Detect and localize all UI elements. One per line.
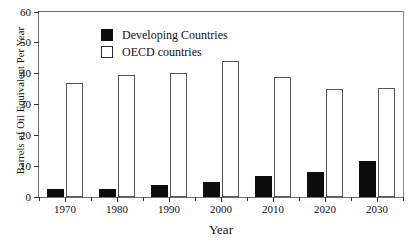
x-tick: 1980 (106, 197, 128, 215)
legend-label: Developing Countries (122, 29, 228, 41)
x-tick: 2020 (314, 197, 336, 215)
x-minor-tick-mark (403, 197, 404, 201)
x-tick-label: 2030 (366, 204, 388, 215)
x-minor-tick-mark (91, 197, 92, 201)
x-tick-mark (117, 197, 118, 202)
y-tick-mark (34, 104, 39, 105)
y-tick-mark (34, 73, 39, 74)
x-tick-mark (273, 197, 274, 202)
legend-item-developing-countries: Developing Countries (101, 26, 228, 43)
bar-oecd-countries (222, 61, 240, 197)
y-tick-label: 0 (26, 191, 32, 202)
bar-developing-countries (151, 185, 169, 197)
x-tick-label: 1970 (54, 204, 76, 215)
y-tick-mark (34, 135, 39, 136)
y-tick-label: 20 (20, 129, 31, 140)
x-tick: 1970 (54, 197, 76, 215)
x-tick-mark (377, 197, 378, 202)
x-minor-tick-mark (351, 197, 352, 201)
x-tick-mark (325, 197, 326, 202)
x-tick: 2030 (366, 197, 388, 215)
chart-legend: Developing Countries OECD countries (101, 26, 228, 60)
legend-swatch-open-square-icon (101, 46, 113, 58)
y-tick-label: 30 (20, 99, 31, 110)
x-minor-tick-mark (39, 197, 40, 201)
legend-item-oecd-countries: OECD countries (101, 43, 228, 60)
y-tick-label: 10 (20, 160, 31, 171)
x-minor-tick-mark (195, 197, 196, 201)
bar-oecd-countries (170, 73, 188, 197)
bar-developing-countries (203, 182, 221, 197)
bar-oecd-countries (118, 75, 136, 197)
x-tick-mark (65, 197, 66, 202)
bar-developing-countries (307, 172, 325, 197)
x-tick: 1990 (158, 197, 180, 215)
bar-oecd-countries (66, 83, 84, 197)
bar-oecd-countries (326, 89, 344, 197)
chart-figure: Barrels of Oil Equivalent Per Year 01020… (0, 0, 412, 247)
y-tick-label: 60 (20, 6, 31, 17)
x-minor-tick-mark (247, 197, 248, 201)
x-tick-label: 2020 (314, 204, 336, 215)
x-tick-label: 1990 (158, 204, 180, 215)
x-tick: 2010 (262, 197, 284, 215)
bar-oecd-countries (274, 77, 292, 197)
plot-area: 0102030405060 19701980199020002010202020… (38, 11, 404, 198)
x-tick-mark (169, 197, 170, 202)
bar-developing-countries (255, 176, 273, 197)
bar-developing-countries (359, 161, 377, 197)
legend-label: OECD countries (122, 46, 202, 58)
legend-swatch-filled-square-icon (101, 29, 113, 41)
bar-developing-countries (47, 189, 65, 197)
bar-oecd-countries (378, 88, 396, 197)
x-tick-label: 1980 (106, 204, 128, 215)
y-tick-mark (34, 12, 39, 13)
bar-developing-countries (99, 189, 117, 197)
y-tick-mark (34, 166, 39, 167)
x-tick: 2000 (210, 197, 232, 215)
y-tick-label: 50 (20, 37, 31, 48)
x-tick-mark (221, 197, 222, 202)
x-minor-tick-mark (143, 197, 144, 201)
y-tick-label: 40 (20, 68, 31, 79)
x-minor-tick-mark (299, 197, 300, 201)
x-axis-title: Year (38, 222, 404, 238)
y-tick-mark (34, 42, 39, 43)
x-tick-label: 2010 (262, 204, 284, 215)
x-tick-label: 2000 (210, 204, 232, 215)
